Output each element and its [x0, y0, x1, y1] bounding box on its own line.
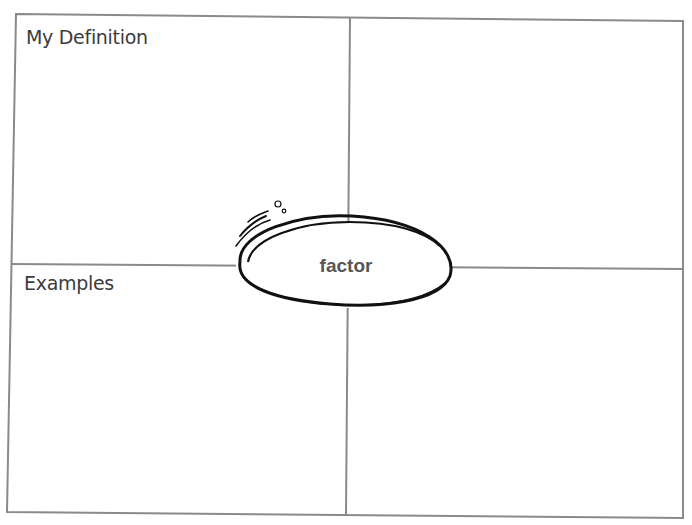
label-examples: Examples	[24, 272, 114, 294]
label-my-definition: My Definition	[26, 26, 148, 48]
center-word: factor	[300, 255, 392, 277]
